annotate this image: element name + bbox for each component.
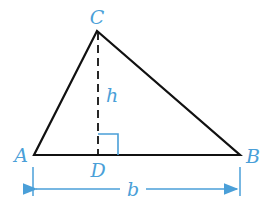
altitude-label-h: h <box>106 84 118 106</box>
triangle-abc <box>34 31 240 155</box>
diagram-svg: C A B D h b <box>0 0 274 206</box>
base-label-b: b <box>127 178 139 200</box>
triangle-diagram: C A B D h b <box>0 0 274 206</box>
right-angle-marker <box>98 134 118 155</box>
vertex-label-c: C <box>90 6 105 28</box>
vertex-label-b: B <box>245 145 260 167</box>
vertex-label-a: A <box>12 144 28 166</box>
point-label-d: D <box>89 159 105 181</box>
